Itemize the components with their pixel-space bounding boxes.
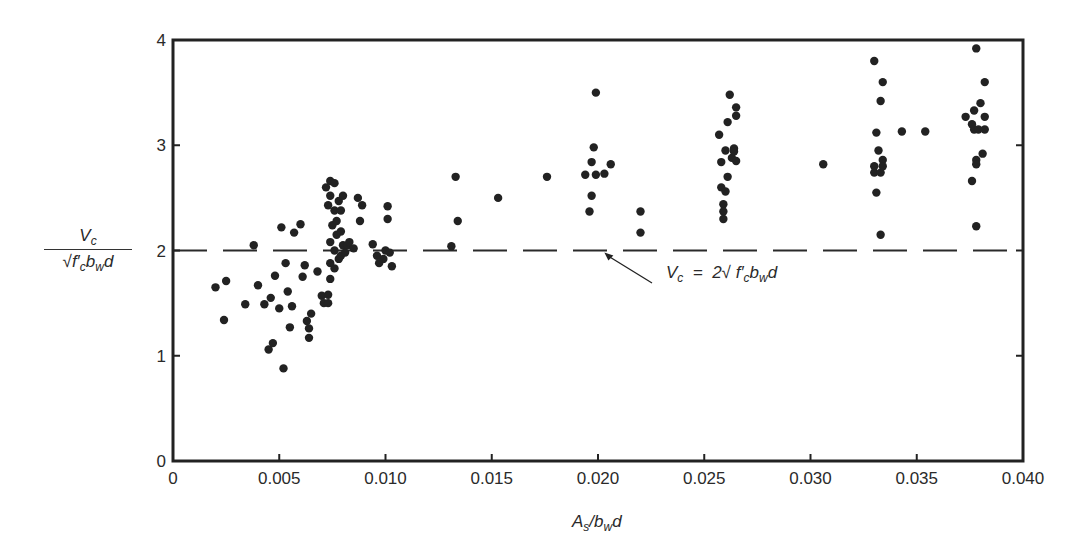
data-point xyxy=(326,192,334,200)
data-point xyxy=(279,364,287,372)
data-point xyxy=(332,217,340,225)
data-point xyxy=(356,217,364,225)
data-point xyxy=(260,300,268,308)
data-point xyxy=(379,255,387,263)
data-point xyxy=(607,160,615,168)
data-point xyxy=(961,113,969,121)
data-point xyxy=(876,97,884,105)
data-point xyxy=(386,248,394,256)
data-point xyxy=(590,143,598,151)
data-point xyxy=(290,228,298,236)
data-point xyxy=(972,222,980,230)
data-point xyxy=(354,194,362,202)
y-tick-label: 3 xyxy=(157,136,166,155)
y-axis-label: Vc √f′cbwd xyxy=(38,226,138,275)
data-point xyxy=(879,162,887,170)
data-point xyxy=(972,44,980,52)
data-point xyxy=(241,300,249,308)
y-tick-label: 4 xyxy=(157,31,166,50)
data-point xyxy=(636,207,644,215)
data-point xyxy=(275,304,283,312)
data-point xyxy=(271,272,279,280)
data-point xyxy=(305,334,313,342)
data-point xyxy=(732,112,740,120)
data-point xyxy=(874,146,882,154)
y-tick-label: 2 xyxy=(157,242,166,261)
x-axis-label: As/bwd xyxy=(572,512,622,534)
data-point xyxy=(211,283,219,291)
data-point xyxy=(326,238,334,246)
data-point xyxy=(250,241,258,249)
data-point xyxy=(972,160,980,168)
data-point xyxy=(358,201,366,209)
x-tick-label: 0.020 xyxy=(577,469,620,488)
data-point xyxy=(872,188,880,196)
data-point xyxy=(305,324,313,332)
data-point xyxy=(819,160,827,168)
data-point xyxy=(921,127,929,135)
data-point xyxy=(636,228,644,236)
data-point xyxy=(587,158,595,166)
data-point xyxy=(281,259,289,267)
axis-ticks: 00.0050.0100.0150.0200.0250.0300.0350.04… xyxy=(157,31,1045,488)
data-point xyxy=(723,118,731,126)
data-point xyxy=(732,157,740,165)
data-point xyxy=(298,273,306,281)
data-point xyxy=(267,294,275,302)
data-point xyxy=(732,103,740,111)
data-point xyxy=(587,192,595,200)
data-point xyxy=(981,78,989,86)
data-point xyxy=(383,202,391,210)
data-point xyxy=(870,162,878,170)
data-point xyxy=(970,106,978,114)
data-point xyxy=(324,291,332,299)
data-points xyxy=(211,44,989,372)
data-point xyxy=(303,317,311,325)
data-point xyxy=(879,78,887,86)
data-point xyxy=(592,88,600,96)
data-point xyxy=(388,262,396,270)
x-tick-label: 0.030 xyxy=(789,469,832,488)
data-point xyxy=(220,316,228,324)
data-point xyxy=(581,171,589,179)
data-point xyxy=(454,217,462,225)
data-point xyxy=(730,147,738,155)
data-point xyxy=(723,173,731,181)
data-point xyxy=(383,215,391,223)
data-point xyxy=(543,173,551,181)
data-point xyxy=(726,91,734,99)
x-tick-label: 0.035 xyxy=(895,469,938,488)
data-point xyxy=(222,277,230,285)
reference-line-annotation: Vc = 2√ f′cbwd xyxy=(666,263,777,285)
data-point xyxy=(981,125,989,133)
data-point xyxy=(341,248,349,256)
annotation-arrow xyxy=(604,253,652,284)
data-point xyxy=(339,192,347,200)
x-tick-label: 0 xyxy=(168,469,177,488)
data-point xyxy=(715,131,723,139)
data-point xyxy=(324,299,332,307)
data-point xyxy=(717,158,725,166)
x-tick-label: 0.025 xyxy=(683,469,726,488)
data-point xyxy=(968,177,976,185)
data-point xyxy=(898,127,906,135)
data-point xyxy=(494,194,502,202)
data-point xyxy=(286,323,294,331)
data-point xyxy=(976,99,984,107)
data-point xyxy=(721,146,729,154)
y-tick-label: 1 xyxy=(157,347,166,366)
data-point xyxy=(326,275,334,283)
data-point xyxy=(719,200,727,208)
x-tick-label: 0.015 xyxy=(470,469,513,488)
data-point xyxy=(284,287,292,295)
data-point xyxy=(585,207,593,215)
x-tick-label: 0.040 xyxy=(1002,469,1045,488)
data-point xyxy=(876,231,884,239)
x-tick-label: 0.005 xyxy=(258,469,301,488)
data-point xyxy=(978,149,986,157)
data-point xyxy=(592,171,600,179)
scatter-chart: 00.0050.0100.0150.0200.0250.0300.0350.04… xyxy=(0,0,1083,557)
data-point xyxy=(301,261,309,269)
data-point xyxy=(337,227,345,235)
data-point xyxy=(721,187,729,195)
